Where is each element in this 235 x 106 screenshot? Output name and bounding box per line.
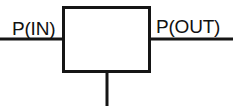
- pressure-regulator-diagram: P(IN) P(OUT): [0, 0, 235, 106]
- regulator-body-box: [64, 8, 150, 72]
- inlet-label: P(IN): [12, 18, 55, 39]
- outlet-label: P(OUT): [156, 16, 220, 37]
- diagram-canvas: P(IN) P(OUT): [0, 0, 235, 106]
